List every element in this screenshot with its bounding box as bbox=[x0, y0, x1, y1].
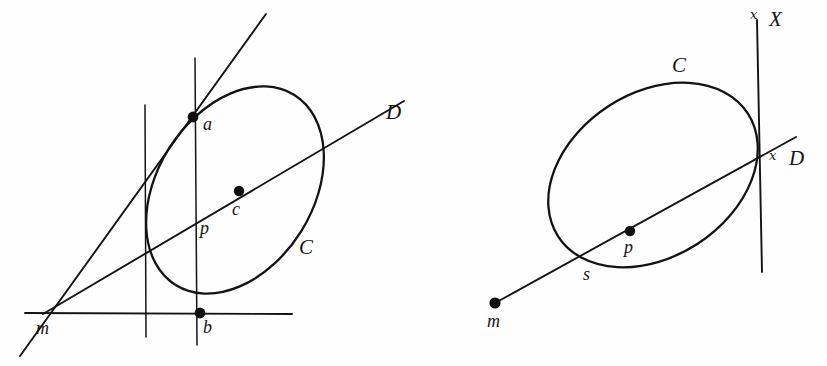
right-point-m-dot bbox=[489, 297, 500, 308]
left-label-line-D: D bbox=[385, 100, 401, 124]
right-label-line-X: X bbox=[768, 7, 783, 31]
right-script-marker-x-icon: x bbox=[750, 7, 758, 22]
left-vertical-line-through-a-b bbox=[195, 58, 197, 345]
right-secant-line-D bbox=[495, 137, 796, 303]
right-label-line-D: D bbox=[788, 146, 804, 170]
figure-canvas: a b c p m D C p s m C bbox=[0, 0, 827, 366]
left-label-a: a bbox=[203, 114, 212, 134]
right-diagram: p s m C x X x D bbox=[487, 7, 804, 331]
left-point-c-dot bbox=[234, 186, 244, 196]
left-vertical-auxiliary-line bbox=[145, 105, 146, 337]
left-diagram: a b c p m D C bbox=[20, 14, 404, 356]
right-point-p-dot bbox=[625, 226, 635, 236]
left-secant-line-D bbox=[43, 101, 404, 314]
right-label-conic-C: C bbox=[672, 53, 687, 77]
right-script-marker-d-icon: x bbox=[769, 148, 777, 163]
left-horizontal-polar-line bbox=[25, 313, 292, 314]
right-label-p: p bbox=[622, 237, 633, 257]
left-label-c: c bbox=[232, 199, 240, 219]
right-label-s: s bbox=[583, 264, 590, 284]
left-label-conic-C: C bbox=[299, 235, 314, 259]
right-label-m: m bbox=[487, 311, 500, 331]
left-label-b: b bbox=[203, 317, 212, 337]
right-conic-ellipse-C bbox=[514, 45, 793, 306]
left-label-m: m bbox=[36, 318, 49, 338]
left-point-a-dot bbox=[188, 112, 199, 123]
left-label-p: p bbox=[198, 218, 209, 238]
figure-container: a b c p m D C p s m C bbox=[0, 0, 827, 366]
